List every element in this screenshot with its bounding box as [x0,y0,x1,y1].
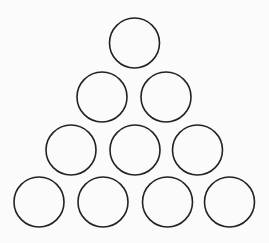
circle-row4-2 [78,177,128,227]
circle-row3-2 [110,125,160,175]
circle-row4-1 [14,177,64,227]
circles-group [14,18,255,227]
circle-triangle-diagram [0,0,269,243]
diagram-canvas [0,0,269,243]
circle-row2-2 [141,72,191,122]
circle-row2-1 [77,72,127,122]
circle-row4-4 [205,177,255,227]
circle-row3-1 [46,125,96,175]
circle-row4-3 [143,177,193,227]
circle-row1-1 [110,18,160,68]
circle-row3-3 [173,125,223,175]
